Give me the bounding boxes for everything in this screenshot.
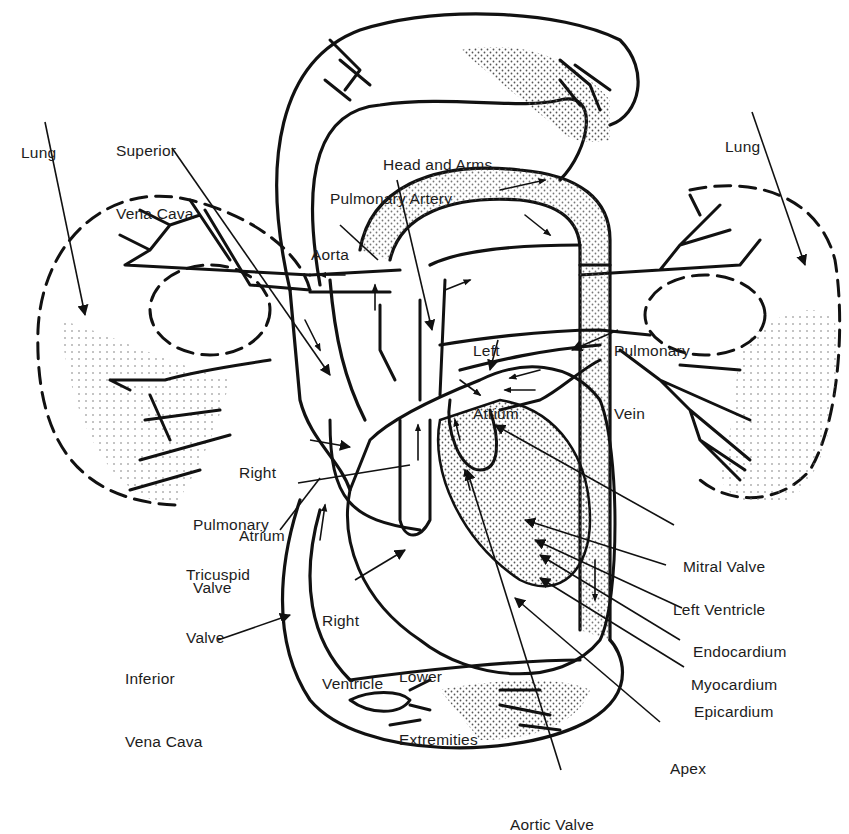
label-text: Lower — [399, 666, 478, 687]
label-text: Tricuspid — [186, 564, 250, 585]
label-text: Right — [322, 610, 383, 631]
label-text: Lung — [21, 142, 56, 163]
label-right-ventricle: Right Ventricle — [322, 568, 383, 715]
label-aortic-valve: Aortic Valve — [510, 772, 594, 834]
label-text: Atrium — [473, 403, 519, 424]
label-left-atrium: Left Atrium — [473, 298, 519, 445]
label-lung-left: Lung — [21, 100, 56, 184]
label-text: Extremities — [399, 729, 478, 750]
label-aorta: Aorta — [311, 202, 349, 286]
label-lung-right: Lung — [725, 94, 760, 178]
label-lower-extremities: Lower Extremities — [399, 624, 478, 771]
label-apex: Apex — [670, 716, 706, 800]
label-text: Ventricle — [322, 673, 383, 694]
label-inferior-vena-cava: Inferior Vena Cava — [125, 626, 203, 773]
label-text: Vena Cava — [116, 203, 194, 224]
label-text: Pulmonary — [614, 340, 690, 361]
label-text: Vein — [614, 403, 690, 424]
label-text: Aortic Valve — [510, 814, 594, 834]
label-text: Inferior — [125, 668, 203, 689]
label-pulmonary-vein: Pulmonary Vein — [614, 298, 690, 445]
label-text: Left — [473, 340, 519, 361]
label-text: Aorta — [311, 244, 349, 265]
label-text: Superior — [116, 140, 194, 161]
label-text: Vena Cava — [125, 731, 203, 752]
label-superior-vena-cava: Superior Vena Cava — [116, 98, 194, 245]
label-text: Apex — [670, 758, 706, 779]
label-text: Lung — [725, 136, 760, 157]
